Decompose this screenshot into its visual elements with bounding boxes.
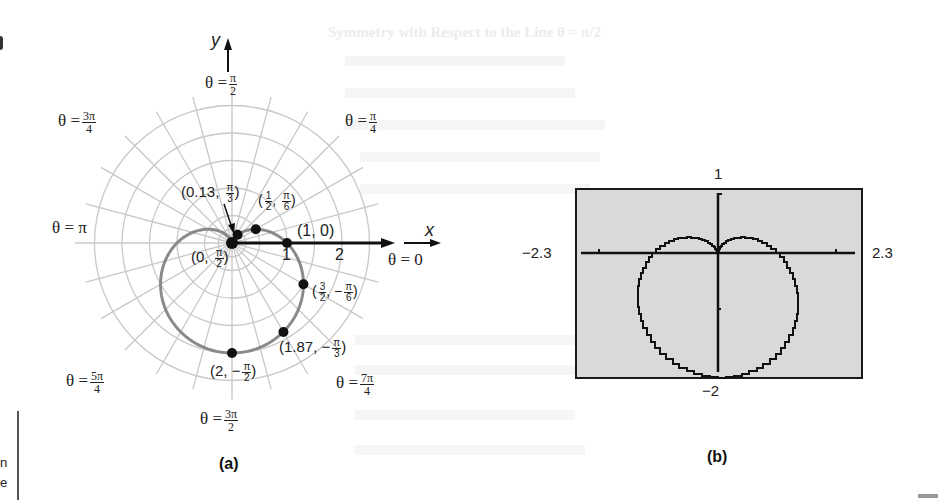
calc-xmax-label: 2.3	[872, 244, 893, 261]
calculator-graph	[0, 0, 938, 500]
calc-ymax-label: 1	[714, 165, 722, 182]
caption-b: (b)	[707, 448, 727, 466]
calc-xmin-label: −2.3	[522, 244, 552, 261]
calc-ymin-label: −2	[702, 382, 719, 399]
